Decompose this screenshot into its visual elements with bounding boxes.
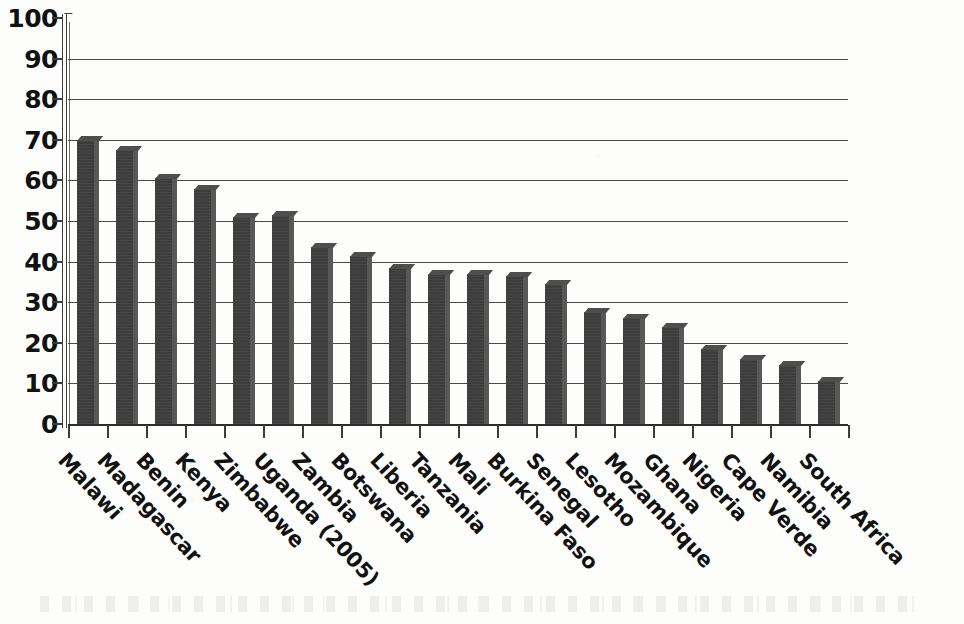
bar-side bbox=[328, 247, 333, 424]
x-axis-category-label: Zimbabwe bbox=[209, 448, 309, 553]
bar-top bbox=[233, 213, 259, 218]
y-axis-tick-label: 90 bbox=[0, 44, 58, 73]
x-axis-tick-mark bbox=[458, 425, 460, 438]
bar-top bbox=[350, 252, 376, 257]
bar-top bbox=[545, 280, 571, 285]
x-axis-category-label: Tanzania bbox=[404, 448, 491, 539]
y-axis-tick-label: 30 bbox=[0, 288, 58, 317]
bar-top bbox=[662, 323, 688, 328]
x-axis-category-label: Malawi bbox=[53, 448, 126, 524]
bar-side bbox=[601, 312, 606, 424]
bar-side bbox=[94, 140, 99, 424]
x-axis-tick-mark bbox=[575, 425, 577, 438]
bar-side bbox=[718, 349, 723, 424]
y-axis-line-mid bbox=[66, 14, 67, 428]
x-axis-tick-mark bbox=[419, 425, 421, 438]
bar bbox=[428, 274, 450, 424]
x-axis-tick-mark bbox=[185, 425, 187, 438]
gridline bbox=[68, 262, 848, 263]
bar-top bbox=[311, 243, 337, 248]
y-axis-tick-label: 40 bbox=[0, 247, 58, 276]
x-axis-tick-mark bbox=[146, 425, 148, 438]
bar-top bbox=[740, 355, 766, 360]
x-axis-tick-mark bbox=[341, 425, 343, 438]
bar bbox=[701, 349, 723, 424]
bar bbox=[818, 381, 840, 424]
bar bbox=[272, 215, 294, 424]
x-axis-tick-mark bbox=[848, 425, 850, 438]
bar bbox=[77, 140, 99, 424]
plot-area bbox=[68, 18, 848, 424]
bar bbox=[467, 274, 489, 424]
bar-side bbox=[562, 284, 567, 424]
x-axis-tick-mark bbox=[653, 425, 655, 438]
bar-top bbox=[779, 361, 805, 366]
scan-artifact bbox=[40, 596, 920, 612]
bar-top bbox=[701, 345, 727, 350]
bar-side bbox=[796, 365, 801, 424]
bar bbox=[155, 178, 177, 424]
x-axis-category-label: Botswana bbox=[326, 448, 421, 548]
bar-side bbox=[406, 268, 411, 424]
x-axis-tick-mark bbox=[263, 425, 265, 438]
y-axis-tick-label: 20 bbox=[0, 328, 58, 357]
bar-top bbox=[77, 136, 103, 141]
x-axis-tick-mark bbox=[614, 425, 616, 438]
bar-side bbox=[250, 217, 255, 424]
x-axis-category-label: Lesotho bbox=[560, 448, 641, 532]
bar-top bbox=[467, 270, 493, 275]
x-axis-tick-mark bbox=[731, 425, 733, 438]
y-axis-tick-label: 100 bbox=[0, 4, 58, 33]
bar-side bbox=[211, 189, 216, 424]
x-axis-tick-mark bbox=[302, 425, 304, 438]
bar-side bbox=[172, 178, 177, 424]
x-axis-tick-mark bbox=[380, 425, 382, 438]
y-axis-tick-label: 10 bbox=[0, 369, 58, 398]
chart-page: 0102030405060708090100 MalawiMadagascarB… bbox=[0, 0, 964, 624]
bar-side bbox=[523, 276, 528, 424]
bar-side bbox=[757, 359, 762, 424]
x-axis-tick-mark bbox=[692, 425, 694, 438]
gridline bbox=[68, 180, 848, 181]
bar-top bbox=[116, 146, 142, 151]
x-axis-category-label: Liberia bbox=[365, 448, 437, 523]
x-axis-category-label: Nigeria bbox=[677, 448, 752, 526]
x-axis-tick-mark bbox=[107, 425, 109, 438]
bar bbox=[545, 284, 567, 424]
x-axis-tick-mark bbox=[497, 425, 499, 438]
bar bbox=[662, 327, 684, 424]
bar-top bbox=[428, 270, 454, 275]
bar-top bbox=[584, 308, 610, 313]
x-axis-category-label: Cape Verde bbox=[716, 448, 824, 562]
bar-top bbox=[818, 377, 844, 382]
x-axis-category-label: Madagascar bbox=[92, 448, 206, 567]
x-axis-tick-mark bbox=[770, 425, 772, 438]
x-axis-tick-mark bbox=[809, 425, 811, 438]
y-axis-line-front bbox=[62, 14, 63, 428]
bar-top bbox=[155, 174, 181, 179]
bar-side bbox=[445, 274, 450, 424]
bar-top bbox=[506, 272, 532, 277]
bar bbox=[506, 276, 528, 424]
x-axis-tick-mark bbox=[68, 425, 70, 438]
y-axis-tick-label: 0 bbox=[0, 410, 58, 439]
bar-side bbox=[679, 327, 684, 424]
bar bbox=[311, 247, 333, 424]
x-axis bbox=[68, 425, 858, 439]
gridline bbox=[68, 140, 848, 141]
x-axis-category-label: South Africa bbox=[794, 448, 910, 570]
bar-top bbox=[623, 314, 649, 319]
bar-top bbox=[272, 211, 298, 216]
gridline bbox=[68, 302, 848, 303]
y-axis-tick-label: 70 bbox=[0, 125, 58, 154]
bar-side bbox=[133, 150, 138, 424]
bar-side bbox=[367, 256, 372, 424]
x-axis-category-label: Benin bbox=[131, 448, 194, 513]
gridline bbox=[68, 99, 848, 100]
x-axis-category-label: Namibia bbox=[755, 448, 838, 534]
gridline bbox=[68, 221, 848, 222]
y-axis-tick-label: 50 bbox=[0, 207, 58, 236]
bar bbox=[740, 359, 762, 424]
bar-top bbox=[194, 185, 220, 190]
bar-top bbox=[389, 264, 415, 269]
